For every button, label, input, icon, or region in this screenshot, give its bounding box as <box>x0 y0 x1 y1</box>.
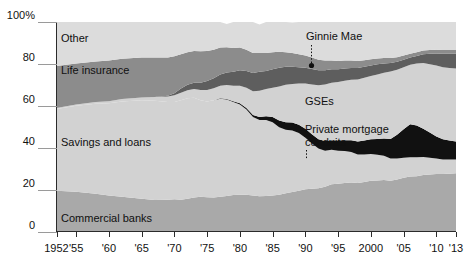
y-tick-group: 100%806040200 <box>7 9 57 232</box>
x-tick-label: '80 <box>233 242 247 254</box>
x-tick-label: '75 <box>200 242 214 254</box>
x-tick-label: '13 <box>449 242 463 254</box>
x-tick-group: 1952'55'60'65'70'75'80'85'90'952000'05'1… <box>44 232 463 255</box>
series-label-life-insurance: Life insurance <box>61 64 130 76</box>
x-tick-label: '05 <box>396 242 410 254</box>
x-tick-label: '85 <box>265 242 279 254</box>
x-tick-label: 2000 <box>359 242 383 254</box>
x-tick-label: 1952 <box>44 242 68 254</box>
y-tick-label: 60 <box>23 93 35 105</box>
series-label-commercial-banks: Commercial banks <box>61 212 153 224</box>
x-tick-label: '70 <box>167 242 181 254</box>
series-label-ginnie-mae: Ginnie Mae <box>306 30 362 42</box>
y-tick-label: 100% <box>7 9 35 21</box>
x-tick-label: '60 <box>102 242 116 254</box>
x-tick-label: '55 <box>69 242 83 254</box>
y-tick-label: 40 <box>23 135 35 147</box>
x-tick-label: '95 <box>331 242 345 254</box>
x-tick-label: '65 <box>134 242 148 254</box>
area-series-group <box>57 22 457 232</box>
series-label-private-mortgage-conduits-line1: Private mortgage <box>305 123 389 135</box>
x-tick-label: '10 <box>429 242 443 254</box>
y-tick-label: 20 <box>23 177 35 189</box>
chart-canvas: 100%8060402001952'55'60'65'70'75'80'85'9… <box>0 0 476 273</box>
series-label-savings-and-loans: Savings and loans <box>61 136 151 148</box>
series-label-private-mortgage-conduits-line2: conduits <box>305 136 346 148</box>
y-tick-label: 80 <box>23 51 35 63</box>
series-label-gses: GSEs <box>305 95 334 107</box>
y-tick-label: 0 <box>29 219 35 231</box>
stacked-area-chart: 100%8060402001952'55'60'65'70'75'80'85'9… <box>0 0 476 273</box>
x-tick-label: '90 <box>298 242 312 254</box>
ginnie-mae-leader-dot <box>309 63 314 68</box>
series-label-other: Other <box>61 32 89 44</box>
